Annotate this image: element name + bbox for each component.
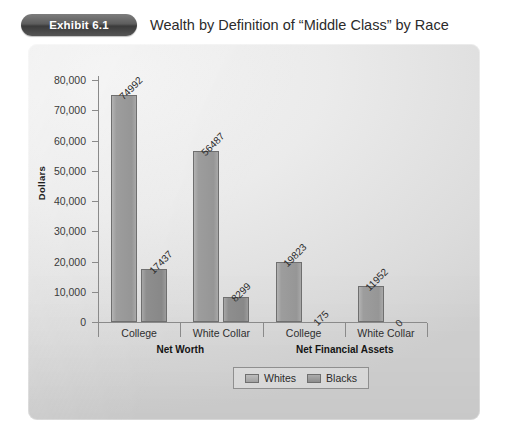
y-axis-line	[98, 76, 99, 323]
x-group-label: Net Financial Assets	[263, 344, 428, 355]
y-tick-label: 30,000	[30, 225, 86, 237]
x-category-label: College	[98, 327, 180, 339]
y-tick-mark	[92, 292, 98, 293]
exhibit-header: Exhibit 6.1 Wealth by Definition of “Mid…	[0, 0, 523, 40]
bar-value-label: 175	[311, 309, 331, 329]
y-tick-mark	[92, 80, 98, 81]
y-tick-label: 60,000	[30, 135, 86, 147]
y-tick-label: 70,000	[30, 104, 86, 116]
y-tick-label: 50,000	[30, 165, 86, 177]
bar-whites-1	[193, 151, 219, 322]
x-tick-mark	[427, 323, 428, 337]
y-tick-mark	[92, 110, 98, 111]
y-tick-label: 10,000	[30, 286, 86, 298]
y-tick-label: 0	[30, 316, 86, 328]
x-group-label: Net Worth	[98, 344, 263, 355]
y-tick-label: 80,000	[30, 74, 86, 86]
legend-swatch-blacks	[307, 374, 321, 383]
y-tick-mark	[92, 231, 98, 232]
y-tick-label: 40,000	[30, 195, 86, 207]
x-category-label: College	[263, 327, 345, 339]
y-tick-mark	[92, 141, 98, 142]
x-category-label: White Collar	[180, 327, 262, 339]
y-tick-mark	[92, 262, 98, 263]
chart-legend: Whites Blacks	[233, 367, 369, 389]
legend-swatch-whites	[245, 374, 259, 383]
bar-whites-0	[111, 95, 137, 322]
y-tick-mark	[92, 171, 98, 172]
exhibit-badge: Exhibit 6.1	[21, 14, 137, 36]
plot-area: Dollars 010,00020,00030,00040,00050,0006…	[28, 44, 480, 420]
y-tick-mark	[92, 201, 98, 202]
legend-item-blacks: Blacks	[307, 372, 357, 384]
chart-panel: Dollars 010,00020,00030,00040,00050,0006…	[28, 44, 480, 420]
legend-label-whites: Whites	[264, 372, 296, 384]
y-tick-label: 20,000	[30, 256, 86, 268]
legend-item-whites: Whites	[245, 372, 296, 384]
legend-label-blacks: Blacks	[326, 372, 357, 384]
bar-whites-2	[276, 262, 302, 322]
bar-blacks-0	[141, 269, 167, 322]
page-title: Wealth by Definition of “Middle Class” b…	[150, 14, 449, 36]
x-category-label: White Collar	[345, 327, 427, 339]
